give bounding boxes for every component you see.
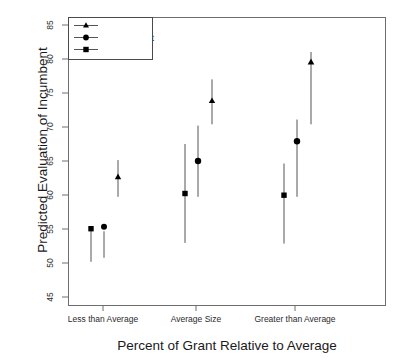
datapoint-republican-2 [281,164,286,244]
circle-icon [83,35,89,41]
datapoint-independent-2 [294,120,300,197]
plot-frame [69,18,386,306]
datapoint-republican-0 [88,226,93,262]
datapoint-independent-1 [195,126,201,197]
group-average-size [182,79,215,243]
square-icon [83,47,88,52]
group-greater-than-average [281,52,314,244]
legend-box [69,18,153,60]
chart-figure: Predicted Evaluation of Incumbent Percen… [0,0,401,362]
datapoint-democrat-1 [209,79,215,124]
datapoint-democrat-0 [115,160,121,197]
datapoint-democrat-2 [308,52,315,124]
x-axis-ticks [103,306,295,312]
plot-canvas [0,0,401,362]
datapoint-republican-1 [182,144,187,243]
group-less-than-average [88,160,121,262]
datapoint-independent-0 [101,224,107,258]
y-axis-ticks [62,25,68,297]
